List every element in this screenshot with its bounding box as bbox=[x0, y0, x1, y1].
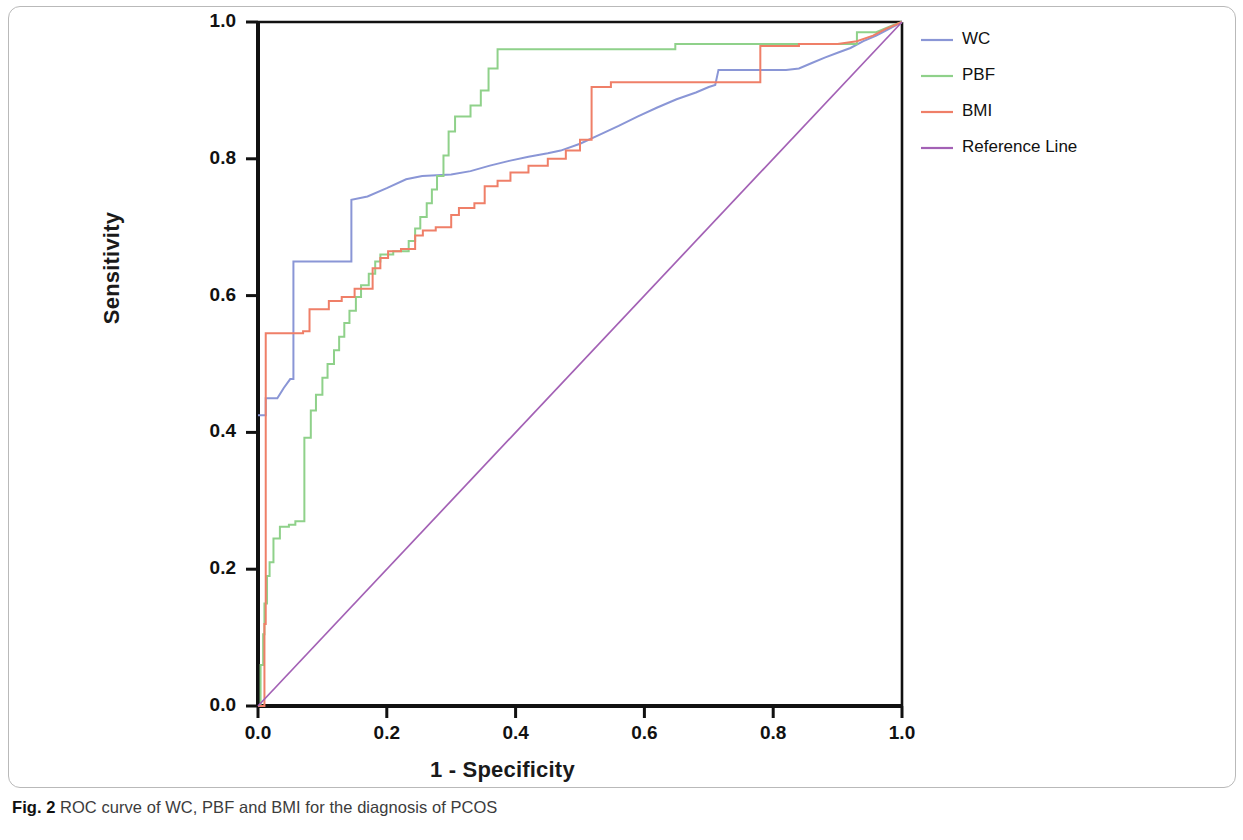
x-axis-title: 1 - Specificity bbox=[430, 757, 575, 783]
y-tick-label: 0.6 bbox=[176, 284, 236, 306]
x-tick-label: 0.8 bbox=[743, 722, 803, 744]
x-tick-label: 0.2 bbox=[357, 722, 417, 744]
figure-container: Sensitivity 1 - Specificity 0.00.20.40.6… bbox=[0, 0, 1243, 840]
curves-group bbox=[258, 22, 902, 706]
y-tick-label: 1.0 bbox=[176, 10, 236, 32]
legend-label-bmi: BMI bbox=[962, 101, 992, 121]
roc-curve-reference-line bbox=[258, 22, 902, 706]
roc-curve-wc bbox=[258, 22, 902, 415]
y-tick-label: 0.0 bbox=[176, 694, 236, 716]
y-tick-label: 0.4 bbox=[176, 420, 236, 442]
x-tick-label: 1.0 bbox=[872, 722, 932, 744]
y-tick-label: 0.2 bbox=[176, 557, 236, 579]
x-tick-label: 0.6 bbox=[614, 722, 674, 744]
x-tick-label: 0.4 bbox=[486, 722, 546, 744]
legend-label-wc: WC bbox=[962, 29, 990, 49]
legend-label-reference-line: Reference Line bbox=[962, 137, 1077, 157]
y-tick-label: 0.8 bbox=[176, 147, 236, 169]
y-axis-title: Sensitivity bbox=[99, 153, 125, 383]
caption-text: ROC curve of WC, PBF and BMI for the dia… bbox=[55, 798, 497, 816]
figure-caption: Fig. 2 ROC curve of WC, PBF and BMI for … bbox=[12, 798, 1212, 817]
legend-swatch-group bbox=[921, 40, 953, 148]
legend-label-pbf: PBF bbox=[962, 65, 995, 85]
caption-label: Fig. 2 bbox=[12, 798, 55, 816]
x-tick-label: 0.0 bbox=[228, 722, 288, 744]
